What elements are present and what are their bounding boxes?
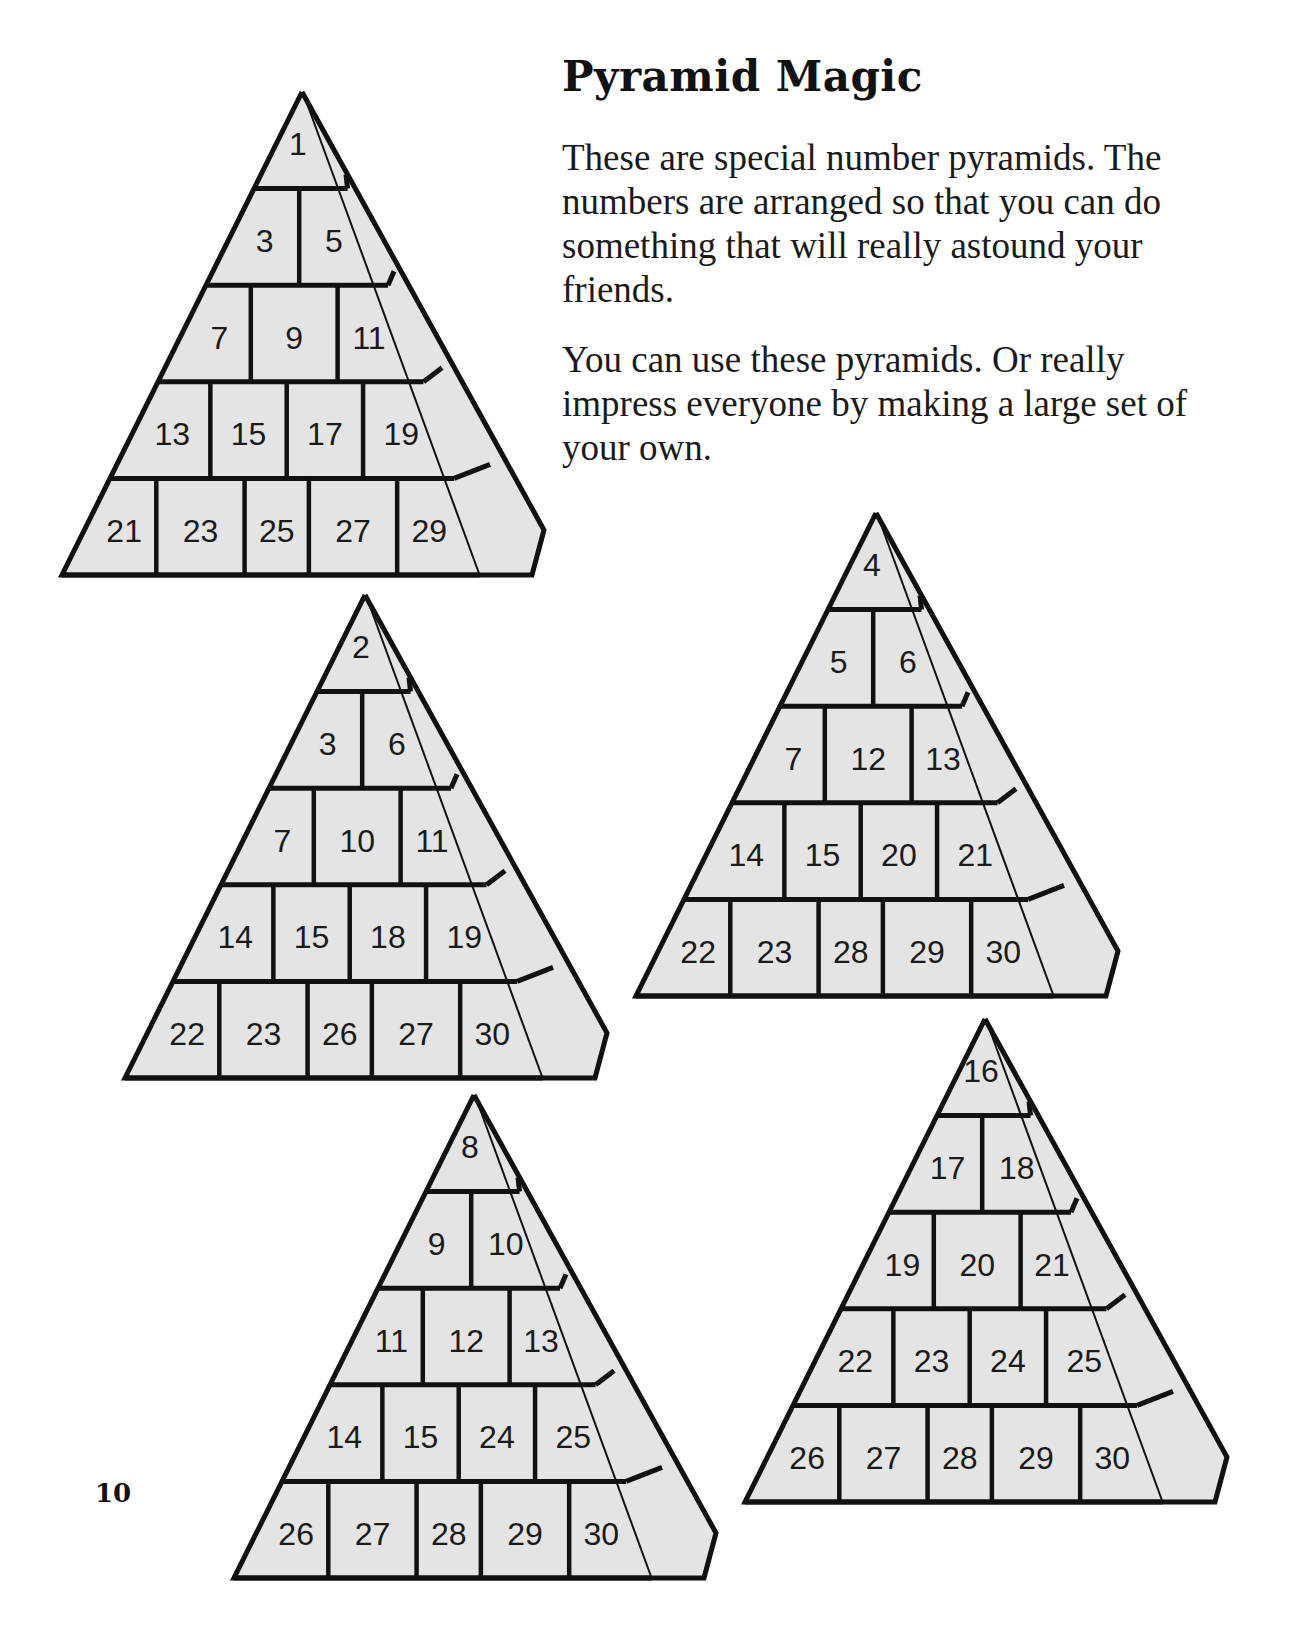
pyramid-number: 16 — [963, 1053, 999, 1089]
pyramid-number: 11 — [375, 1323, 408, 1359]
pyramid-number: 7 — [274, 823, 292, 859]
pyramid-number: 12 — [448, 1323, 484, 1359]
pyramid-number: 17 — [930, 1150, 966, 1186]
pyramid-number: 11 — [415, 823, 448, 859]
pyramid-number: 26 — [789, 1440, 825, 1476]
pyramid-number: 2 — [352, 629, 370, 665]
pyramid-number: 14 — [326, 1419, 362, 1455]
pyramid-number: 28 — [833, 934, 869, 970]
pyramid-number: 30 — [475, 1016, 511, 1052]
pyramid-number: 9 — [428, 1226, 446, 1262]
pyramid-number: 22 — [169, 1016, 205, 1052]
instruction-paragraph: You can use these pyramids. Or really im… — [562, 338, 1202, 470]
pyramid-number: 30 — [584, 1516, 620, 1552]
pyramid-number: 21 — [106, 513, 142, 549]
number-pyramid-4: 45671213141520212223282930 — [606, 483, 1166, 1026]
pyramid-number: 22 — [837, 1343, 873, 1379]
pyramid-number: 26 — [322, 1016, 358, 1052]
pyramid-number: 19 — [383, 416, 419, 452]
pyramid-number: 18 — [370, 919, 406, 955]
pyramid-number: 22 — [680, 934, 716, 970]
pyramid-number: 7 — [211, 320, 229, 356]
pyramid-number: 25 — [259, 513, 295, 549]
pyramid-number: 6 — [899, 644, 917, 680]
pyramid-number: 9 — [285, 320, 303, 356]
pyramid-number: 27 — [866, 1440, 902, 1476]
pyramid-number: 8 — [461, 1129, 479, 1165]
pyramid-number: 19 — [446, 919, 482, 955]
pyramid-number: 3 — [256, 223, 274, 259]
number-pyramid-16: 161718192021222324252627282930 — [715, 989, 1275, 1532]
pyramid-number: 12 — [850, 741, 886, 777]
pyramid-number: 15 — [294, 919, 330, 955]
pyramid-number: 29 — [909, 934, 945, 970]
pyramid-number: 5 — [325, 223, 343, 259]
pyramid-number: 27 — [355, 1516, 391, 1552]
pyramid-number: 25 — [1066, 1343, 1102, 1379]
intro-paragraph: These are special number pyramids. The n… — [562, 136, 1202, 312]
page-number: 10 — [95, 1478, 131, 1508]
pyramid-number: 26 — [278, 1516, 314, 1552]
pyramid-number: 24 — [990, 1343, 1026, 1379]
pyramid-number: 14 — [217, 919, 253, 955]
pyramid-number: 15 — [403, 1419, 439, 1455]
pyramid-number: 21 — [957, 837, 993, 873]
pyramid-number: 15 — [231, 416, 267, 452]
pyramid-number: 28 — [942, 1440, 978, 1476]
pyramid-number: 17 — [307, 416, 343, 452]
pyramid-number: 20 — [959, 1247, 995, 1283]
pyramid-number: 23 — [914, 1343, 950, 1379]
pyramid-number: 23 — [183, 513, 219, 549]
pyramid-number: 5 — [830, 644, 848, 680]
pyramid-number: 10 — [488, 1226, 524, 1262]
pyramid-number: 14 — [728, 837, 764, 873]
pyramid-number: 6 — [388, 726, 406, 762]
pyramid-number: 29 — [412, 513, 448, 549]
pyramid-number: 27 — [335, 513, 371, 549]
pyramid-number: 7 — [785, 741, 803, 777]
pyramid-number: 23 — [757, 934, 793, 970]
pyramid-number: 19 — [885, 1247, 921, 1283]
pyramid-number: 15 — [805, 837, 841, 873]
pyramid-number: 13 — [925, 741, 961, 777]
pyramid-number: 25 — [555, 1419, 591, 1455]
page-title: Pyramid Magic — [562, 52, 923, 101]
pyramid-number: 30 — [1095, 1440, 1131, 1476]
pyramid-number: 20 — [881, 837, 917, 873]
pyramid-number: 24 — [479, 1419, 515, 1455]
pyramid-number: 27 — [398, 1016, 434, 1052]
pyramid-number: 30 — [986, 934, 1022, 970]
pyramid-number: 1 — [289, 126, 307, 162]
pyramid-number: 13 — [154, 416, 190, 452]
pyramid-number: 4 — [863, 547, 881, 583]
pyramid-number: 11 — [352, 320, 385, 356]
number-pyramid-8: 8910111213141524252627282930 — [204, 1065, 764, 1608]
pyramid-number: 21 — [1034, 1247, 1070, 1283]
pyramid-number: 29 — [507, 1516, 543, 1552]
pyramid-number: 13 — [523, 1323, 559, 1359]
pyramid-number: 29 — [1018, 1440, 1054, 1476]
pyramid-number: 23 — [246, 1016, 282, 1052]
pyramid-number: 28 — [431, 1516, 467, 1552]
pyramid-number: 10 — [339, 823, 375, 859]
number-pyramid-2: 23671011141518192223262730 — [95, 565, 655, 1108]
pyramid-number: 18 — [999, 1150, 1035, 1186]
number-pyramid-1: 1357911131517192123252729 — [32, 62, 592, 605]
pyramid-number: 3 — [319, 726, 337, 762]
